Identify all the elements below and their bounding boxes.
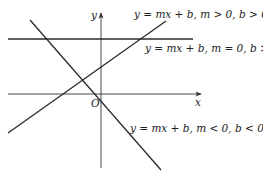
label-negative-slope: y = mx + b, m < 0, b < 0 bbox=[129, 122, 263, 134]
origin-label: O bbox=[91, 97, 100, 109]
line-negative-slope bbox=[30, 20, 161, 170]
y-axis-label: y bbox=[90, 9, 98, 21]
label-positive-slope: y = mx + b, m > 0, b > 0 bbox=[133, 8, 263, 20]
line-graph-diagram: y x O y = mx + b, m > 0, b > 0 y = mx + … bbox=[0, 0, 263, 177]
label-zero-slope: y = mx + b, m = 0, b > 0 bbox=[144, 42, 263, 54]
line-positive-slope bbox=[8, 21, 166, 133]
x-axis-label: x bbox=[195, 96, 201, 108]
